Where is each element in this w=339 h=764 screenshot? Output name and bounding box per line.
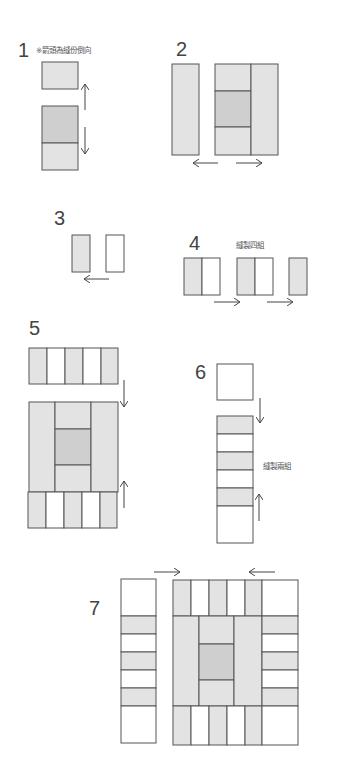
light-strip-piece — [121, 652, 156, 670]
light-strip-piece — [251, 64, 278, 155]
light-strip-piece — [262, 616, 298, 634]
quilt-block-assembly-diagram: 1 ※箭頭為縫份倒向 2 3 4 縫製四組 5 — [0, 0, 339, 764]
light-strip-piece — [217, 488, 253, 506]
white-strip-piece — [191, 580, 209, 616]
step-3: 3 — [54, 207, 124, 279]
light-square-piece — [215, 127, 251, 155]
light-strip-piece — [100, 492, 117, 528]
white-strip-piece — [83, 348, 101, 384]
white-strip-piece — [47, 348, 65, 384]
light-strip-piece — [64, 492, 82, 528]
white-square-piece — [121, 579, 156, 616]
light-strip-piece — [91, 402, 118, 492]
light-strip-piece — [184, 258, 202, 295]
light-square-piece — [55, 402, 91, 429]
white-square-piece — [262, 580, 298, 616]
white-strip-piece — [46, 492, 64, 528]
dark-center-piece — [42, 106, 78, 143]
step-number: 2 — [176, 38, 187, 60]
light-strip-piece — [217, 452, 253, 470]
light-strip-piece — [237, 258, 255, 295]
white-strip-piece — [106, 235, 124, 272]
light-strip-piece — [65, 348, 83, 384]
white-strip-piece — [191, 706, 209, 745]
light-strip-piece — [245, 580, 262, 616]
light-strip-piece — [172, 64, 199, 155]
step-1: 1 ※箭頭為縫份倒向 — [18, 39, 91, 170]
dark-center-piece — [199, 644, 234, 680]
step-5: 5 — [28, 317, 124, 528]
light-strip-piece — [121, 688, 156, 706]
white-strip-piece — [262, 670, 298, 688]
step-number: 5 — [29, 317, 40, 339]
light-strip-piece — [217, 416, 253, 434]
light-square-piece — [199, 680, 234, 706]
make-two-note: 縫製兩組 — [263, 461, 292, 471]
light-strip-piece — [209, 580, 227, 616]
light-square-piece — [199, 616, 234, 644]
white-strip-piece — [82, 492, 100, 528]
light-strip-piece — [234, 616, 262, 706]
light-strip-piece — [245, 706, 262, 745]
make-four-note: 縫製四組 — [236, 240, 265, 250]
light-strip-piece — [173, 580, 191, 616]
light-strip-piece — [262, 688, 298, 706]
light-strip-piece — [289, 258, 307, 295]
light-strip-piece — [29, 348, 47, 384]
white-strip-piece — [202, 258, 220, 295]
white-square-piece — [217, 506, 253, 543]
light-square-piece — [42, 62, 78, 89]
light-strip-piece — [121, 616, 156, 634]
light-square-piece — [55, 465, 91, 492]
white-strip-piece — [262, 634, 298, 652]
light-strip-piece — [72, 235, 90, 272]
light-square-piece — [215, 64, 251, 91]
white-strip-piece — [217, 434, 253, 452]
step-number: 6 — [195, 361, 206, 383]
white-strip-piece — [121, 670, 156, 688]
white-square-piece — [121, 706, 156, 743]
light-strip-piece — [262, 652, 298, 670]
light-strip-piece — [28, 492, 46, 528]
step-2: 2 — [172, 38, 278, 163]
step-number: 3 — [54, 207, 65, 229]
step-4: 4 縫製四組 — [184, 232, 307, 302]
white-square-piece — [262, 706, 298, 745]
light-strip-piece — [173, 616, 199, 706]
white-strip-piece — [227, 580, 245, 616]
white-square-piece — [217, 364, 253, 400]
dark-center-piece — [215, 91, 251, 127]
step-7: 7 — [89, 572, 298, 745]
step-6: 6 縫製兩組 — [195, 361, 292, 543]
dark-center-piece — [55, 429, 91, 465]
step-number: 4 — [189, 232, 200, 254]
light-strip-piece — [29, 402, 55, 492]
white-strip-piece — [217, 470, 253, 488]
step-number: 1 — [18, 39, 29, 61]
white-strip-piece — [121, 634, 156, 652]
seam-allowance-note: ※箭頭為縫份倒向 — [36, 45, 91, 55]
white-strip-piece — [255, 258, 273, 295]
light-strip-piece — [173, 706, 191, 745]
light-strip-piece — [209, 706, 227, 745]
light-square-piece — [42, 143, 78, 170]
white-strip-piece — [227, 706, 245, 745]
light-strip-piece — [101, 348, 118, 384]
step-number: 7 — [89, 597, 100, 619]
